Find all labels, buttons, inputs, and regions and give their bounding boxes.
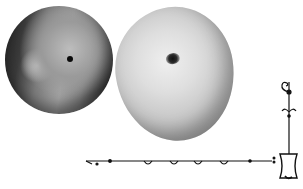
ornamental-border-icon [0,0,303,189]
illustration-canvas [0,0,303,189]
